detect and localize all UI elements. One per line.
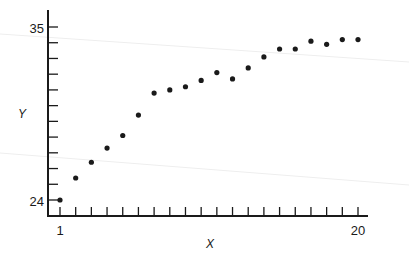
data-point (136, 112, 141, 117)
data-point (355, 37, 360, 42)
data-point (167, 87, 172, 92)
data-point (277, 46, 282, 51)
data-point (214, 70, 219, 75)
scatter-chart: 3524120XY (0, 0, 409, 261)
scan-artifacts (0, 34, 409, 185)
data-point (261, 54, 266, 59)
data-point (199, 78, 204, 83)
data-point (308, 39, 313, 44)
data-point (324, 42, 329, 47)
data-point (340, 37, 345, 42)
data-point (183, 84, 188, 89)
data-point (89, 160, 94, 165)
x-tick-label-min: 1 (56, 223, 63, 238)
data-point (293, 46, 298, 51)
y-axis-title: Y (18, 107, 27, 121)
data-point (246, 65, 251, 70)
y-tick-label-min: 24 (30, 194, 44, 209)
data-point (57, 197, 62, 202)
data-point (230, 76, 235, 81)
y-tick-label-max: 35 (30, 21, 44, 36)
data-point (120, 133, 125, 138)
x-tick-label-max: 20 (351, 223, 365, 238)
x-axis-title: X (205, 237, 215, 251)
data-point (152, 90, 157, 95)
data-point (104, 146, 109, 151)
data-point (73, 175, 78, 180)
